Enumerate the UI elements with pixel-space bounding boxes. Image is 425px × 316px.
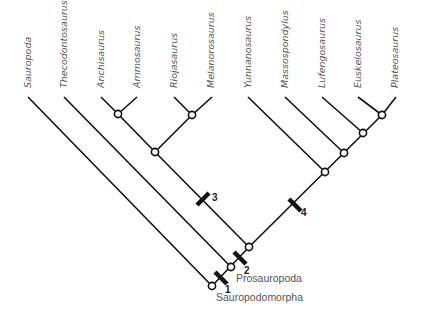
cladogram: Sauropoda Thecodontosaurus Anchisaurus A… [0,0,425,316]
taxon-label-anchisaurus: Anchisaurus [95,30,106,89]
clade-label-sauropodomorpha: Sauropodomorpha [216,291,303,303]
branch-riojasaurus-melanorosaurus [155,115,192,152]
marker-1-tick [215,272,227,284]
node-anchisaurus-ammosaurus [114,110,121,117]
taxon-label-sauropoda: Sauropoda [22,37,33,88]
node-left-clade [151,148,158,155]
taxon-labels: Sauropoda Thecodontosaurus Anchisaurus A… [22,0,400,89]
node-lufengosaurus [359,129,366,136]
taxon-label-euskelosaurus: Euskelosaurus [352,20,363,88]
taxon-label-ammosaurus: Ammosaurus [131,25,142,89]
marker-2-tick [234,252,246,264]
node-core-prosauropods [245,243,252,250]
branch-lufengosaurus [322,97,363,133]
node-sauropodomorpha [208,282,215,289]
taxon-label-riojasaurus: Riojasaurus [168,33,179,88]
marker-3-label: 3 [212,192,218,203]
node-euskelosaurus-plateosaurus [378,111,385,118]
branch-euskelosaurus [358,97,382,115]
taxon-label-melanorosaurus: Melanorosaurus [205,12,216,88]
taxon-label-lufengosaurus: Lufengosaurus [316,18,327,88]
branch-sauropoda [28,97,212,286]
clade-label-prosauropoda: Prosauropoda [236,272,302,284]
marker-4-label: 4 [301,207,307,218]
branch-massospondylus [285,97,344,153]
taxon-label-yunnanosaurus: Yunnanosaurus [242,16,253,88]
node-riojasaurus-melanorosaurus [188,111,195,118]
branch-anchisaurus-ammosaurus [118,114,155,152]
marker-3-tick [197,193,209,205]
taxon-label-thecodontosaurus: Thecodontosaurus [58,0,69,88]
branch-thecodontosaurus [64,97,231,267]
branch-yunnanosaurus [248,97,325,172]
nodes [114,110,385,289]
node-massospondylus [340,149,347,156]
node-yunnanosaurus [321,168,328,175]
node-prosauropoda [227,263,234,270]
taxon-label-plateosaurus: Plateosaurus [389,27,400,88]
taxon-label-massospondylus: Massospondylus [279,10,290,88]
